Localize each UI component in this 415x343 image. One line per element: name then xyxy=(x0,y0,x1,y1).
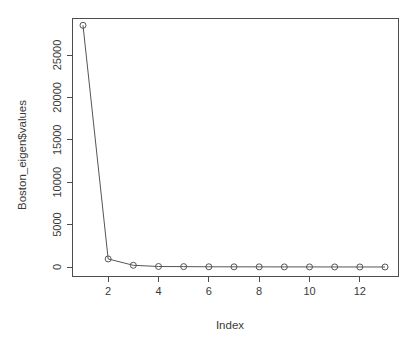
x-axis-ticks xyxy=(108,277,360,283)
x-tick-label: 10 xyxy=(303,285,315,297)
y-tick-label: 0 xyxy=(51,264,63,270)
data-point-markers xyxy=(80,22,388,270)
x-tick-label: 6 xyxy=(206,285,212,297)
y-tick-label: 15000 xyxy=(51,125,63,156)
y-axis-title: Boston_eigen$values xyxy=(16,100,28,210)
x-tick-label: 8 xyxy=(256,285,262,297)
x-axis-tick-labels: 24681012 xyxy=(105,285,366,297)
plot-canvas: 0500010000150002000025000 24681012 Bosto… xyxy=(0,0,415,343)
x-tick-label: 12 xyxy=(354,285,366,297)
x-axis-title: Index xyxy=(216,319,244,331)
x-tick-label: 4 xyxy=(155,285,161,297)
y-axis-tick-labels: 0500010000150002000025000 xyxy=(51,40,63,270)
y-tick-label: 10000 xyxy=(51,167,63,198)
y-tick-label: 25000 xyxy=(51,40,63,71)
y-tick-label: 20000 xyxy=(51,82,63,113)
x-tick-label: 2 xyxy=(105,285,111,297)
data-series-line xyxy=(83,25,385,267)
y-axis-ticks xyxy=(67,55,73,267)
plot-frame xyxy=(73,19,399,277)
y-tick-label: 5000 xyxy=(51,212,63,236)
scree-plot-figure: 0500010000150002000025000 24681012 Bosto… xyxy=(0,0,415,343)
